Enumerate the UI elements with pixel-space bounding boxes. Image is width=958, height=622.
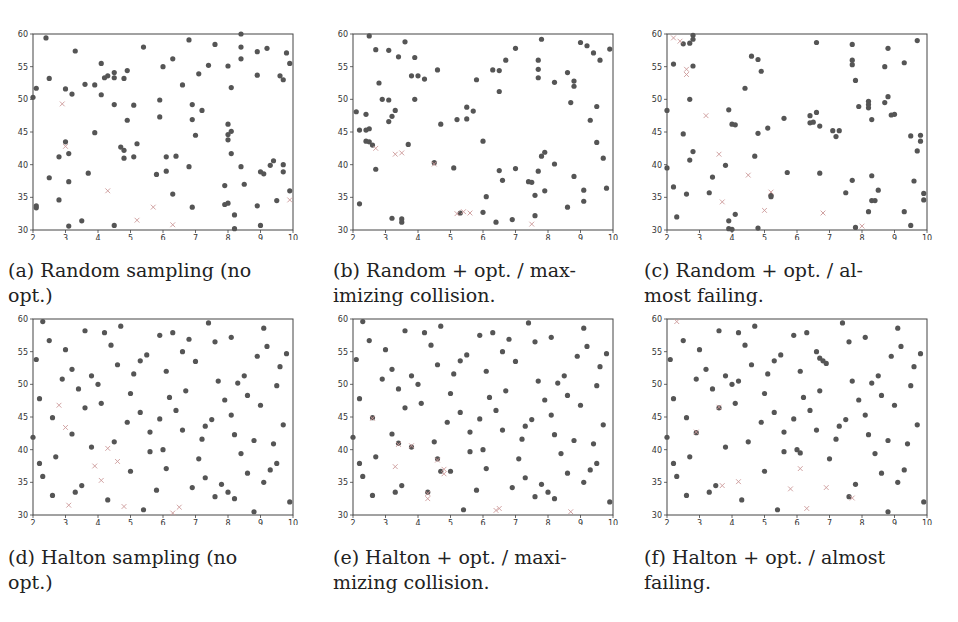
scatter-panel-f: 234567891030354045505560	[634, 313, 954, 525]
y-tick-label: 45	[338, 413, 348, 422]
plot-area	[667, 319, 927, 515]
x-tick-label: 9	[578, 519, 583, 525]
plot-area	[33, 34, 293, 230]
x-tick-label: 3	[63, 234, 68, 240]
x-tick-label: 9	[258, 234, 263, 240]
scatter-panel-b: 234567891030354045505560	[320, 28, 640, 240]
x-tick-label: 4	[95, 234, 100, 240]
scatter-plot: 234567891030354045505560	[634, 313, 954, 525]
y-tick-label: 40	[18, 446, 28, 455]
x-tick-label: 10	[922, 519, 932, 525]
y-tick-label: 50	[338, 380, 348, 389]
x-tick-label: 2	[30, 519, 35, 525]
y-tick-label: 50	[652, 380, 662, 389]
x-tick-label: 8	[225, 519, 230, 525]
x-tick-label: 7	[513, 234, 518, 240]
x-tick-label: 2	[664, 234, 669, 240]
x-tick-label: 9	[892, 519, 897, 525]
scatter-panel-c: 234567891030354045505560	[634, 28, 954, 240]
y-tick-label: 45	[338, 128, 348, 137]
y-tick-label: 30	[18, 511, 28, 520]
y-tick-label: 35	[338, 478, 348, 487]
x-tick-label: 5	[128, 234, 133, 240]
caption-a: (a) Random sampling (noopt.)	[8, 258, 308, 308]
x-tick-label: 6	[794, 234, 799, 240]
y-tick-label: 45	[652, 128, 662, 137]
x-tick-label: 9	[578, 234, 583, 240]
x-tick-label: 7	[827, 234, 832, 240]
caption-f: (f) Halton + opt. / almostfailing.	[644, 545, 944, 595]
x-tick-label: 6	[160, 519, 165, 525]
y-tick-label: 30	[18, 226, 28, 235]
y-tick-label: 60	[652, 315, 662, 324]
y-tick-label: 60	[652, 30, 662, 39]
y-tick-label: 50	[338, 95, 348, 104]
scatter-plot: 234567891030354045505560	[634, 28, 954, 240]
x-tick-label: 3	[63, 519, 68, 525]
y-tick-label: 45	[18, 128, 28, 137]
x-tick-label: 3	[383, 234, 388, 240]
x-tick-label: 4	[729, 519, 734, 525]
x-tick-label: 2	[664, 519, 669, 525]
x-tick-label: 2	[350, 519, 355, 525]
x-tick-label: 6	[480, 519, 485, 525]
y-tick-label: 45	[652, 413, 662, 422]
y-tick-label: 35	[18, 193, 28, 202]
plot-area	[353, 34, 613, 230]
y-tick-label: 30	[338, 226, 348, 235]
x-tick-label: 5	[128, 519, 133, 525]
x-tick-label: 7	[827, 519, 832, 525]
x-tick-label: 8	[545, 519, 550, 525]
x-tick-label: 2	[350, 234, 355, 240]
y-tick-label: 35	[338, 193, 348, 202]
x-tick-label: 6	[480, 234, 485, 240]
y-tick-label: 35	[652, 478, 662, 487]
y-tick-label: 35	[18, 478, 28, 487]
caption-b: (b) Random + opt. / max-imizing collisio…	[333, 258, 633, 308]
x-tick-label: 5	[448, 519, 453, 525]
y-tick-label: 50	[18, 95, 28, 104]
y-tick-label: 40	[338, 446, 348, 455]
scatter-plot: 234567891030354045505560	[0, 313, 320, 525]
x-tick-label: 10	[288, 234, 298, 240]
scatter-panel-d: 234567891030354045505560	[0, 313, 320, 525]
y-tick-label: 50	[652, 95, 662, 104]
x-tick-label: 5	[762, 234, 767, 240]
x-tick-label: 8	[859, 519, 864, 525]
plot-area	[33, 319, 293, 515]
y-tick-label: 40	[652, 446, 662, 455]
x-tick-label: 8	[545, 234, 550, 240]
x-tick-label: 5	[762, 519, 767, 525]
y-tick-label: 40	[18, 161, 28, 170]
plot-area	[667, 34, 927, 230]
y-tick-label: 60	[338, 315, 348, 324]
y-tick-label: 60	[338, 30, 348, 39]
y-tick-label: 50	[18, 380, 28, 389]
scatter-plot: 234567891030354045505560	[0, 28, 320, 240]
y-tick-label: 30	[652, 511, 662, 520]
x-tick-label: 10	[288, 519, 298, 525]
caption-e: (e) Halton + opt. / maxi-mizing collisio…	[333, 545, 633, 595]
scatter-panel-e: 234567891030354045505560	[320, 313, 640, 525]
x-tick-label: 3	[383, 519, 388, 525]
caption-d: (d) Halton sampling (noopt.)	[8, 545, 308, 595]
y-tick-label: 55	[338, 348, 348, 357]
x-tick-label: 10	[608, 234, 618, 240]
x-tick-label: 7	[193, 234, 198, 240]
x-tick-label: 5	[448, 234, 453, 240]
y-tick-label: 55	[652, 63, 662, 72]
scatter-panel-a: 234567891030354045505560	[0, 28, 320, 240]
x-tick-label: 2	[30, 234, 35, 240]
x-tick-label: 4	[415, 519, 420, 525]
x-tick-label: 10	[608, 519, 618, 525]
y-tick-label: 55	[18, 63, 28, 72]
y-tick-label: 40	[652, 161, 662, 170]
x-tick-label: 6	[160, 234, 165, 240]
caption-c: (c) Random + opt. / al-most failing.	[644, 258, 944, 308]
x-tick-label: 7	[193, 519, 198, 525]
y-tick-label: 35	[652, 193, 662, 202]
y-tick-label: 45	[18, 413, 28, 422]
y-tick-label: 30	[652, 226, 662, 235]
x-tick-label: 8	[225, 234, 230, 240]
scatter-plot: 234567891030354045505560	[320, 313, 640, 525]
